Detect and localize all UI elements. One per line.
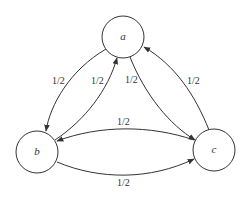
- edge-label-c-to-a: 1/2: [187, 75, 200, 86]
- node-c-label: c: [212, 143, 217, 155]
- edge-label-c-to-b: 1/2: [117, 116, 130, 127]
- edge-label-b-to-a: 1/2: [91, 75, 104, 86]
- edge-c-to-b: [57, 129, 194, 141]
- node-b: b: [16, 131, 58, 173]
- edge-a-to-c: [130, 57, 195, 140]
- node-a-label: a: [120, 30, 126, 42]
- node-c: c: [193, 129, 235, 171]
- node-b-label: b: [34, 145, 40, 157]
- node-a: a: [102, 16, 144, 58]
- edge-label-a-to-c: 1/2: [125, 74, 138, 85]
- edge-c-to-a: [144, 47, 209, 130]
- markov-chain-diagram: 1/2 1/2 1/2 1/2 1/2 1/2 a b c: [0, 0, 252, 197]
- edge-label-b-to-c: 1/2: [117, 177, 130, 188]
- edge-label-a-to-b: 1/2: [52, 75, 65, 86]
- edge-b-to-a: [55, 58, 117, 140]
- edge-b-to-c: [57, 159, 194, 175]
- edge-a-to-b: [46, 49, 106, 131]
